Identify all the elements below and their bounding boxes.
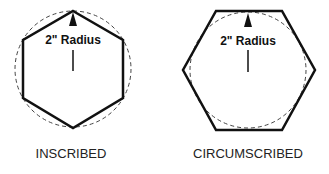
inscribed-caption: INSCRIBED [36, 146, 107, 161]
circumscribed-diagram: 2" Radius CIRCUMSCRIBED [183, 11, 315, 161]
inscribed-diagram: 2" Radius INSCRIBED [15, 11, 131, 161]
radius-arrowhead-icon [69, 12, 77, 26]
circumscribed-hexagon [183, 11, 315, 130]
circumscribed-caption: CIRCUMSCRIBED [193, 146, 303, 161]
hexagon-diagrams: 2" Radius INSCRIBED 2" Radius CIRCUMSCRI… [0, 0, 329, 174]
inscribed-radius-label: 2" Radius [45, 33, 101, 47]
radius-arrowhead-icon [244, 13, 252, 27]
circumscribed-radius-label: 2" Radius [220, 34, 276, 48]
